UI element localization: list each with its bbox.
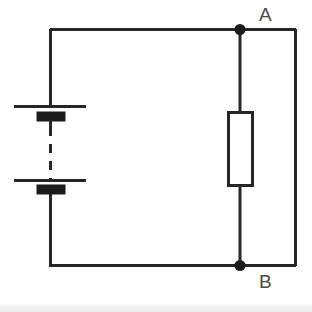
wires-group <box>50 29 296 267</box>
battery-symbol <box>14 107 86 195</box>
node-a-label: A <box>259 5 272 24</box>
circuit-schematic <box>0 0 312 312</box>
battery-cell2-short-plate <box>37 185 65 194</box>
node-a-dot <box>235 24 246 35</box>
node-b-dot <box>235 260 246 271</box>
node-b-label: B <box>259 272 272 291</box>
battery-cell1-short-plate <box>37 112 65 121</box>
resistor-box <box>229 113 253 186</box>
circuit-diagram-canvas: A B <box>0 0 312 312</box>
footer-band <box>0 303 312 312</box>
